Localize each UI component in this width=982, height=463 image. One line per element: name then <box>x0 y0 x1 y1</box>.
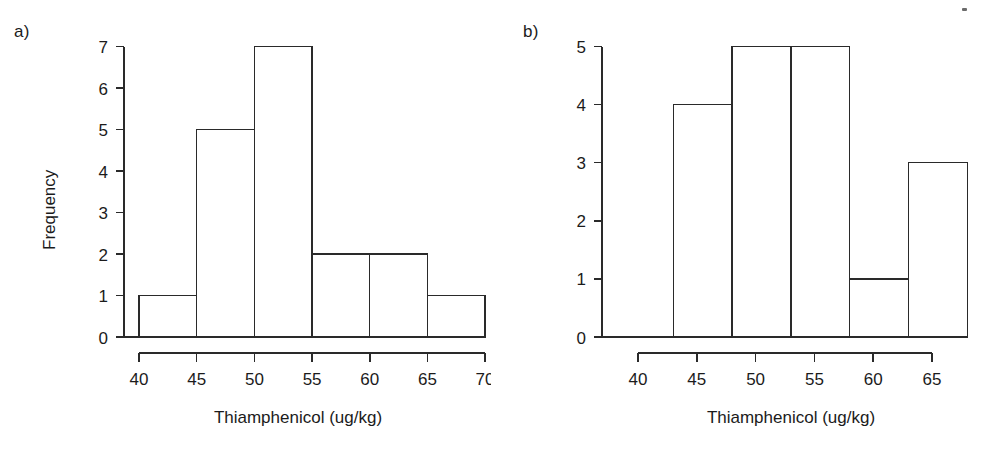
panel-a-y-ticklabel-5: 5 <box>99 121 108 140</box>
panel-a-y-ticklabel-6: 6 <box>99 80 108 99</box>
panel-a-y-ticklabel-3: 3 <box>99 204 108 223</box>
histogram-figure: a) Frequency Thiamphenicol (ug/kg) 7 6 5… <box>0 0 982 463</box>
panel-b-y-ticklabel-5: 5 <box>577 38 586 57</box>
panel-b-x-ticklabel-60: 60 <box>864 370 883 389</box>
panel-b-x-ticklabel-50: 50 <box>746 370 765 389</box>
panel-b-y-ticklabel-4: 4 <box>577 96 586 115</box>
panel-a-x-ticklabel-65: 65 <box>418 370 437 389</box>
panel-b-bar-43-48 <box>673 105 732 337</box>
panel-b-x-ticklabel-45: 45 <box>687 370 706 389</box>
panel-a: a) Frequency Thiamphenicol (ug/kg) 7 6 5… <box>0 0 491 463</box>
panel-a-x-ticklabel-70: 70 <box>476 370 491 389</box>
panel-a-x-ticklabel-45: 45 <box>187 370 206 389</box>
panel-a-y-ticklabel-7: 7 <box>99 38 108 57</box>
panel-a-bar-60-65 <box>370 254 428 337</box>
panel-b-x-ticklabel-65: 65 <box>923 370 942 389</box>
panel-b-y-ticklabel-1: 1 <box>577 270 586 289</box>
panel-b-x-ticklabel-40: 40 <box>629 370 648 389</box>
panel-a-y-ticklabel-2: 2 <box>99 246 108 265</box>
panel-a-bar-55-60 <box>312 254 370 337</box>
panel-a-y-ticklabel-1: 1 <box>99 287 108 306</box>
panel-a-bar-40-45 <box>139 296 197 338</box>
panel-b: b) Thiamphenicol (ug/kg) 5 4 3 2 1 0 <box>491 0 982 463</box>
panel-b-bar-48-53 <box>732 47 791 338</box>
panel-a-x-ticklabel-60: 60 <box>360 370 379 389</box>
panel-a-bar-65-70 <box>427 296 485 338</box>
panel-a-x-axis-label: Thiamphenicol (ug/kg) <box>108 408 488 428</box>
panel-a-y-ticklabel-0: 0 <box>99 329 108 348</box>
panel-b-bar-53-58 <box>791 47 850 338</box>
panel-a-x-ticklabel-55: 55 <box>303 370 322 389</box>
panel-a-bar-50-55 <box>254 47 312 338</box>
panel-a-y-ticklabel-4: 4 <box>99 163 108 182</box>
panel-a-x-ticklabel-50: 50 <box>245 370 264 389</box>
panel-b-y-ticklabel-3: 3 <box>577 154 586 173</box>
panel-b-x-ticklabel-55: 55 <box>805 370 824 389</box>
panel-a-bar-45-50 <box>197 130 255 338</box>
panel-b-y-ticklabel-0: 0 <box>577 329 586 348</box>
panel-b-bar-58-63 <box>850 279 909 337</box>
panel-a-x-ticklabel-40: 40 <box>130 370 149 389</box>
scan-artifact-speck <box>962 8 967 11</box>
panel-b-y-ticklabel-2: 2 <box>577 212 586 231</box>
panel-b-plot: 5 4 3 2 1 0 40 45 50 55 <box>491 0 982 400</box>
panel-b-bar-63-68 <box>908 163 967 337</box>
panel-b-x-axis-label: Thiamphenicol (ug/kg) <box>601 408 981 428</box>
panel-a-plot: 7 6 5 4 3 2 1 0 <box>0 0 491 400</box>
